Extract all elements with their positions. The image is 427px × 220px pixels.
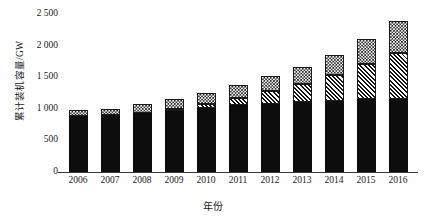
y-tick-label: 2 000 [10,41,58,51]
bar-segment-black [389,99,408,172]
bar-segment-check [325,55,344,75]
bar-segment-black [197,108,216,172]
bar [197,93,216,172]
bar-segment-check [293,67,312,84]
bar-segment-hatch [357,64,376,99]
x-axis-title: 年份 [0,198,427,213]
bar-segment-hatch [229,98,248,106]
bar-segment-black [101,115,120,172]
bar-segment-black [261,104,280,172]
x-axis-tick-labels: 2006200720082009201020112012201320142015… [0,175,427,191]
bar [165,99,184,172]
bar [229,85,248,172]
bar-segment-black [229,105,248,172]
bar-segment-black [293,102,312,172]
plot-area [62,14,414,172]
bar-segment-hatch [389,53,408,99]
bar-segment-check [389,21,408,53]
bar-segment-hatch [325,75,344,102]
y-tick-label: 1 000 [10,104,58,114]
y-tick-label: 1 500 [10,72,58,82]
bar [389,21,408,172]
bar-segment-black [165,111,184,172]
bar [69,110,88,172]
y-tick-label: 500 [10,135,58,145]
bar [357,39,376,172]
bar-segment-check [357,39,376,64]
bar-segment-black [325,101,344,172]
x-axis-line [58,172,418,173]
bar [133,104,152,172]
bar-segment-check [197,93,216,104]
bar [293,67,312,172]
bar [325,55,344,172]
bar-segment-check [261,76,280,91]
bar-segment-black [69,116,88,172]
bar-chart: 累计装机容量/GW 05001 0001 5002 0002 500 20062… [0,0,427,220]
bar-segment-check [229,85,248,98]
bar-segment-check [133,104,152,113]
bar-segment-hatch [261,91,280,104]
y-tick-label: 2 500 [10,9,58,19]
bar [101,109,120,173]
bar-segment-check [165,99,184,109]
bar [261,76,280,172]
bar-segment-black [357,99,376,172]
x-tick-label: 2016 [378,175,418,185]
bar-segment-black [133,113,152,172]
bar-segment-hatch [293,84,312,102]
